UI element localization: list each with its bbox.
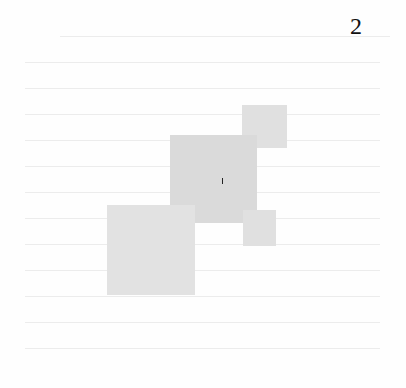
square-lower-right [243,210,276,246]
center-mark [222,178,223,184]
document-page: 2 [0,0,406,388]
square-lower-left [107,205,195,295]
page-number: 2 [350,14,362,38]
